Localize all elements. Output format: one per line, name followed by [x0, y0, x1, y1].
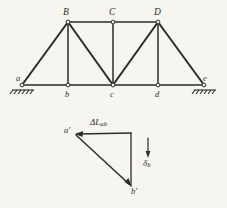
joint-b — [66, 83, 70, 87]
label-joint-C: C — [109, 8, 115, 18]
figure-canvas — [0, 0, 227, 208]
vector-resultant-shaft — [76, 135, 129, 184]
joint-D — [156, 20, 160, 24]
vector-elongation-shaft — [77, 133, 131, 134]
label-settlement-subscript: b — [147, 161, 150, 168]
joint-e — [202, 83, 206, 87]
figure-root: B C D a b c d e a' b' ΔLab δb — [0, 0, 227, 208]
support-right — [192, 90, 216, 94]
truss-group — [22, 22, 204, 85]
label-elongation-symbol: ΔL — [90, 117, 100, 127]
label-joint-b: b — [65, 90, 69, 99]
member-diagonal-c-D — [113, 22, 158, 85]
label-joint-B: B — [63, 8, 69, 18]
member-diagonal-B-c — [68, 22, 113, 85]
label-joint-c: c — [110, 90, 114, 99]
label-elongation-subscript: ab — [100, 120, 107, 127]
joint-d — [156, 83, 160, 87]
label-joint-e: e — [203, 74, 207, 83]
label-settlement-delta-b: δb — [143, 159, 151, 169]
label-joint-d: d — [155, 90, 159, 99]
joint-B — [66, 20, 70, 24]
support-left — [10, 90, 34, 94]
joint-a — [20, 83, 24, 87]
label-elongation-delta-L-ab: ΔLab — [90, 118, 107, 128]
displacement-diagram-group — [75, 131, 150, 187]
label-joint-D: D — [154, 8, 161, 18]
label-joint-a: a — [16, 74, 20, 83]
member-diagonal-D-e — [158, 22, 204, 85]
vector-settlement-arrowhead — [146, 151, 151, 158]
member-diagonal-a-B — [22, 22, 68, 85]
label-vertex-a-prime: a' — [64, 126, 70, 135]
joint-C — [111, 20, 115, 24]
label-vertex-b-prime: b' — [131, 187, 137, 196]
joint-c — [111, 83, 115, 87]
